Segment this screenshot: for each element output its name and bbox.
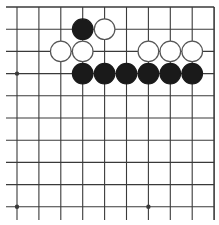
star-point — [146, 205, 150, 209]
black-stone[interactable] — [72, 63, 93, 84]
black-stone[interactable] — [116, 63, 137, 84]
black-stone[interactable] — [94, 63, 115, 84]
black-stone[interactable] — [72, 19, 93, 40]
white-stone[interactable] — [51, 41, 72, 62]
black-stone[interactable] — [182, 63, 203, 84]
star-point — [15, 205, 19, 209]
white-stone[interactable] — [94, 19, 115, 40]
white-stone[interactable] — [182, 41, 203, 62]
white-stone[interactable] — [138, 41, 159, 62]
board-grid — [6, 7, 214, 220]
black-stone[interactable] — [138, 63, 159, 84]
white-stone[interactable] — [72, 41, 93, 62]
black-stone[interactable] — [160, 63, 181, 84]
white-stone[interactable] — [160, 41, 181, 62]
go-board[interactable] — [0, 0, 219, 225]
star-point — [15, 71, 19, 75]
